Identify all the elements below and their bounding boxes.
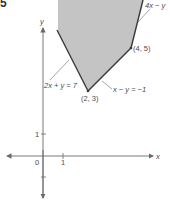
- y-tick-label-1: 1: [35, 130, 39, 139]
- x-axis-label: x: [155, 152, 160, 161]
- feasible-region-diagram: y x 0 1 1 2x + y = 7 x − y = −1 4x − y (…: [0, 0, 170, 201]
- feasible-region: [57, 0, 143, 91]
- vertex-label-2-3: (2, 3): [81, 94, 99, 103]
- origin-label: 0: [35, 158, 39, 167]
- constraint-label-x-minus-y: x − y = −1: [112, 85, 146, 94]
- constraint-label-4x-minus-y: 4x − y: [145, 1, 166, 10]
- x-tick-label-1: 1: [61, 158, 65, 167]
- vertex-label-4-5: (4, 5): [133, 44, 151, 53]
- leader-x-minus-y: [102, 81, 112, 89]
- vertex-2-3: [87, 90, 90, 93]
- vertex-4-5: [130, 47, 133, 50]
- y-axis-label: y: [39, 17, 45, 26]
- constraint-label-2x-plus-y: 2x + y = 7: [43, 81, 78, 90]
- leader-2x-plus-y: [50, 60, 69, 80]
